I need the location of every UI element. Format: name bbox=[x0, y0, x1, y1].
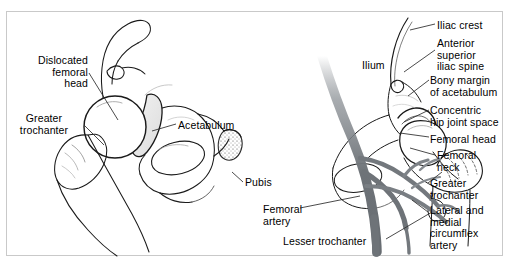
label-greater-trochanter-left: Greater trochanter bbox=[5, 113, 83, 136]
figure-root: Dislocated femoral head Greater trochant… bbox=[0, 0, 510, 268]
label-femoral-neck: Femoral neck bbox=[437, 150, 503, 173]
label-iliac-crest: Iliac crest bbox=[437, 20, 503, 32]
label-pubis: Pubis bbox=[245, 177, 285, 189]
label-anterior-superior-iliac-spine: Anterior superior iliac spine bbox=[437, 38, 503, 73]
label-lesser-trochanter: Lesser trochanter bbox=[283, 236, 387, 248]
leader-anterior-superior-iliac-spine bbox=[404, 50, 435, 72]
label-bony-margin-of-acetabulum: Bony margin of acetabulum bbox=[430, 75, 508, 98]
label-acetabulum: Acetabulum bbox=[178, 120, 250, 132]
label-greater-trochanter-right: Greater trochanter bbox=[430, 178, 502, 201]
label-femoral-artery: Femoral artery bbox=[263, 204, 317, 227]
leader-concentric-hip-joint-space bbox=[404, 110, 429, 122]
label-ilium: Ilium bbox=[362, 60, 396, 72]
leader-pubis bbox=[232, 172, 243, 182]
label-femoral-head: Femoral head bbox=[430, 134, 508, 146]
label-dislocated-femoral-head: Dislocated femoral head bbox=[14, 55, 88, 90]
label-lateral-and-medial-circumflex-artery: Lateral and medial circumflex artery bbox=[430, 205, 502, 251]
label-concentric-hip-joint-space: Concentric hip joint space bbox=[430, 105, 508, 128]
leader-lesser-trochanter bbox=[386, 212, 432, 239]
leader-iliac-crest bbox=[410, 24, 435, 30]
